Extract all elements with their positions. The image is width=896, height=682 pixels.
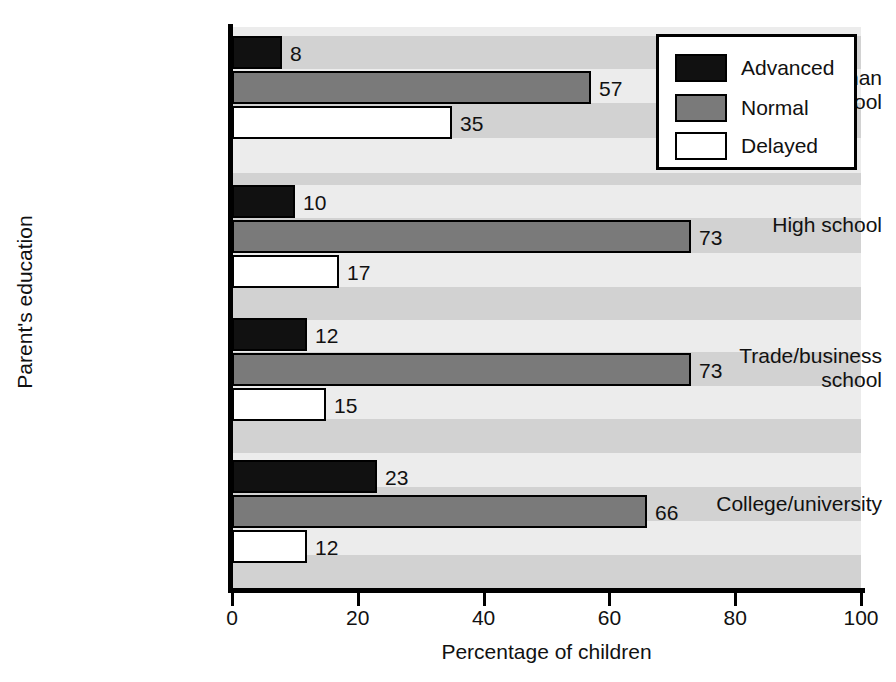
bar-delayed-group-0 [232,106,452,139]
x-axis-tick-label: 40 [449,606,519,630]
plot-background-band [232,419,861,453]
legend-swatch-normal-icon [675,94,727,122]
bar-value-label: 12 [315,537,338,558]
x-axis-line [228,588,865,593]
legend-item-advanced: Advanced [675,54,834,82]
bar-value-label: 35 [460,113,483,134]
x-axis-tick [357,593,360,606]
bar-normal-group-1 [232,220,691,253]
legend-label-normal: Normal [741,96,809,120]
bar-advanced-group-0 [232,36,282,69]
category-label-line: Trade/business [681,344,882,368]
legend-label-advanced: Advanced [741,56,834,80]
y-axis-line [228,24,233,592]
bar-value-label: 57 [599,78,622,99]
legend-item-delayed: Delayed [675,132,818,160]
bar-value-label: 66 [655,502,678,523]
plot-background-band [232,287,861,320]
category-label-line: High school [681,213,882,237]
bar-delayed-group-2 [232,388,326,421]
category-label-line: College/university [681,492,882,516]
legend-swatch-delayed-icon [675,132,727,160]
y-axis-title: Parent's education [13,172,37,432]
bar-value-label: 8 [290,43,302,64]
bar-normal-group-2 [232,353,691,386]
category-label-1: High school [681,213,896,237]
legend: Advanced Normal Delayed [656,34,857,170]
bar-value-label: 23 [385,467,408,488]
bar-value-label: 12 [315,325,338,346]
x-axis-tick-label: 20 [323,606,393,630]
bar-advanced-group-1 [232,185,295,218]
x-axis-tick-label: 100 [826,606,896,630]
bar-value-label: 10 [303,192,326,213]
category-label-3: College/university [681,492,896,516]
bar-advanced-group-3 [232,460,377,493]
category-label-2: Trade/businessschool [681,344,896,392]
x-axis-title: Percentage of children [232,640,861,664]
plot-background-band [232,173,861,185]
plot-background-band [232,555,861,589]
x-axis-tick [231,593,234,606]
category-label-line: school [681,368,882,392]
bar-value-label: 15 [334,395,357,416]
bar-value-label: 17 [347,262,370,283]
legend-swatch-advanced-icon [675,54,727,82]
chart-container: 85735107317127315236612 020406080100 Les… [0,0,896,682]
bar-normal-group-0 [232,71,591,104]
bar-delayed-group-3 [232,530,307,563]
bar-advanced-group-2 [232,318,307,351]
x-axis-tick-label: 80 [700,606,770,630]
x-axis-tick-label: 0 [197,606,267,630]
x-axis-tick [608,593,611,606]
bar-normal-group-3 [232,495,647,528]
legend-label-delayed: Delayed [741,134,818,158]
legend-item-normal: Normal [675,94,809,122]
x-axis-tick-label: 60 [574,606,644,630]
x-axis-tick [483,593,486,606]
x-axis-tick [860,593,863,606]
x-axis-tick [734,593,737,606]
bar-delayed-group-1 [232,255,339,288]
